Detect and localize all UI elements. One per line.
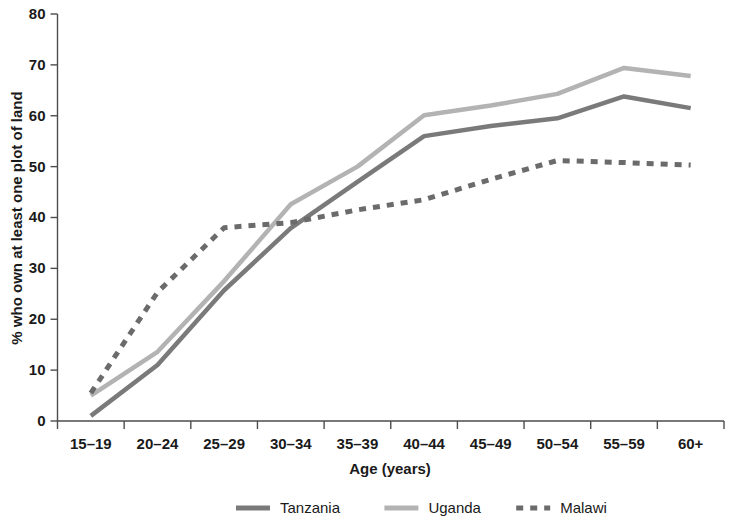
legend-label-tanzania: Tanzania [280,499,341,516]
series-line-malawi [91,161,691,393]
y-tick-label: 40 [29,208,46,225]
legend-label-uganda: Uganda [428,499,481,516]
x-tick-label: 60+ [678,435,704,452]
y-axis-ticks: 01020304050607080 [29,5,58,429]
y-tick-label: 50 [29,158,46,175]
x-tick-label: 20–24 [137,435,179,452]
series-line-tanzania [91,96,691,415]
series-line-uganda [91,68,691,396]
y-tick-label: 70 [29,56,46,73]
y-tick-label: 30 [29,259,46,276]
y-tick-label: 0 [37,412,45,429]
x-tick-label: 30–34 [270,435,312,452]
y-axis-title: % who own at least one plot of land [8,91,25,344]
y-tick-label: 20 [29,310,46,327]
x-tick-label: 15–19 [70,435,112,452]
legend-label-malawi: Malawi [560,499,607,516]
x-tick-label: 45–49 [470,435,512,452]
y-tick-label: 80 [29,5,46,22]
chart-container: % who own at least one plot of land 0102… [0,0,731,524]
x-axis-tick-labels: 15–1920–2425–2930–3435–3940–4445–4950–54… [70,435,704,452]
y-tick-label: 60 [29,107,46,124]
x-tick-label: 25–29 [203,435,245,452]
x-axis-ticks [58,421,725,429]
y-tick-label: 10 [29,361,46,378]
x-tick-label: 50–54 [537,435,579,452]
data-series-group [91,68,691,416]
x-axis-title: Age (years) [349,460,431,477]
chart-legend: TanzaniaUgandaMalawi [236,499,607,516]
line-chart: % who own at least one plot of land 0102… [0,0,731,524]
x-tick-label: 35–39 [337,435,379,452]
x-tick-label: 40–44 [403,435,445,452]
x-tick-label: 55–59 [603,435,645,452]
